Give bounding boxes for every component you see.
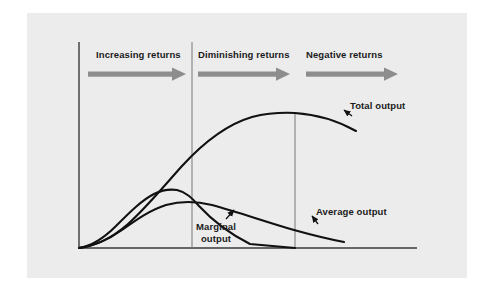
curve-marginal-output — [79, 190, 295, 248]
chart-canvas — [0, 0, 493, 291]
zone-arrows-group — [88, 68, 398, 81]
figure-root: Increasing returns Diminishing returns N… — [0, 0, 493, 291]
curve-label-average-output: Average output — [316, 206, 387, 218]
leader-marginal-output — [226, 210, 234, 219]
zone-label-increasing-returns: Increasing returns — [96, 49, 181, 60]
zone-label-negative-returns: Negative returns — [306, 49, 383, 60]
curve-label-total-output: Total output — [350, 100, 405, 112]
arrow-negative-returns — [306, 68, 398, 81]
curve-label-marginal-output-line2: output — [188, 233, 244, 245]
curve-label-marginal-output: Marginal output — [188, 221, 244, 244]
curve-label-marginal-output-line1: Marginal — [188, 221, 244, 233]
zone-label-diminishing-returns: Diminishing returns — [198, 49, 290, 60]
arrow-increasing-returns — [88, 68, 186, 81]
arrow-diminishing-returns — [198, 68, 290, 81]
